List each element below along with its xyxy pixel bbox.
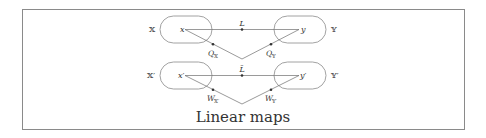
svg-text:𝕐′: 𝕐′ <box>271 98 278 104</box>
q-x-marker <box>212 43 215 46</box>
map-l-marker <box>241 28 244 31</box>
point-y-prime-label: y′ <box>299 71 307 80</box>
set-x-label: 𝕏 <box>149 25 156 34</box>
point-x-prime-label: x′ <box>178 71 185 80</box>
svg-text:𝕏′: 𝕏′ <box>214 98 220 104</box>
w-projection-lines <box>185 76 299 105</box>
w-y-marker <box>270 89 273 92</box>
svg-text:𝕐: 𝕐 <box>271 53 276 59</box>
set-x-prime-label: 𝕏′ <box>147 71 155 80</box>
map-l-tilde-label: L̃ <box>239 65 245 74</box>
q-projection-lines <box>185 30 299 60</box>
w-x-label: W 𝕏′ <box>207 94 220 104</box>
diagram-caption: Linear maps <box>0 108 486 126</box>
q-y-marker <box>270 43 273 46</box>
map-l-label: L <box>239 19 245 28</box>
set-y-label: 𝕐 <box>330 25 337 34</box>
q-x-label: Q 𝕏 <box>208 49 218 59</box>
w-y-label: W 𝕐′ <box>265 94 278 104</box>
q-y-label: Q 𝕐 <box>266 49 276 59</box>
map-l-tilde-marker <box>241 74 244 77</box>
set-y-prime-label: 𝕐′ <box>330 71 339 80</box>
svg-text:𝕏: 𝕏 <box>214 53 218 59</box>
point-y-label: y <box>300 25 306 34</box>
w-x-marker <box>212 89 215 92</box>
point-x-label: x <box>180 25 185 34</box>
